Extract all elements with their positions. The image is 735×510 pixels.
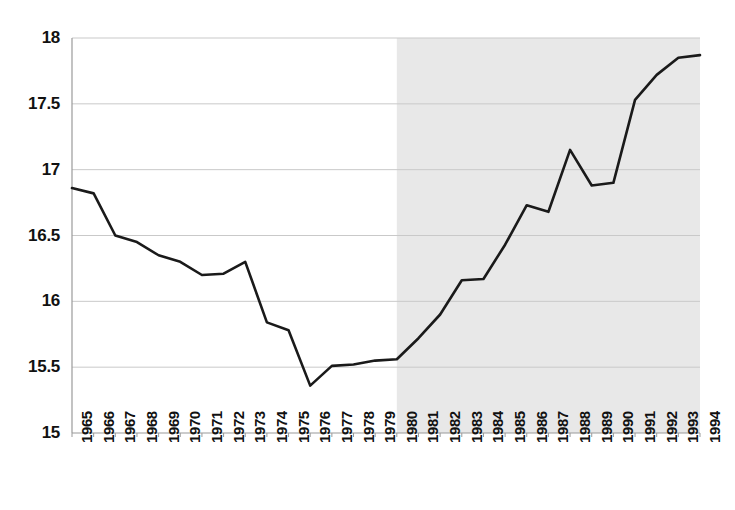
x-axis-tick-label: 1985 [511,411,528,443]
y-axis-tick-label: 17.5 [4,94,60,114]
y-axis-tick-label: 16 [4,291,60,311]
x-axis-tick-label: 1979 [381,411,398,443]
y-axis-tick-label: 15 [4,423,60,443]
x-axis-tick-label: 1976 [316,411,333,443]
chart-container: 1515.51616.51717.518 1965196619671968196… [0,0,735,510]
x-axis-tick-label: 1969 [165,411,182,443]
x-axis-tick-label: 1973 [251,411,268,443]
x-axis-tick-label: 1992 [663,411,680,443]
x-axis-tick-label: 1983 [468,411,485,443]
x-axis-tick-label: 1975 [295,411,312,443]
y-axis-tick-label: 18 [4,28,60,48]
x-axis-tick-label: 1966 [100,411,117,443]
x-axis-tick-label: 1994 [706,411,723,443]
x-axis-tick-label: 1967 [121,411,138,443]
x-axis-tick-label: 1981 [424,411,441,443]
y-axis-tick-label: 17 [4,160,60,180]
x-axis-tick-label: 1965 [78,411,95,443]
x-axis-tick-label: 1978 [360,411,377,443]
x-axis-tick-label: 1988 [576,411,593,443]
x-axis-tick-label: 1982 [446,411,463,443]
x-axis-tick-label: 1987 [554,411,571,443]
x-axis-tick-label: 1977 [338,411,355,443]
x-axis-tick-label: 1993 [684,411,701,443]
y-axis-tick-label: 16.5 [4,226,60,246]
x-axis-tick-label: 1972 [230,411,247,443]
x-axis-tick-label: 1968 [143,411,160,443]
x-axis-tick-label: 1971 [208,411,225,443]
y-axis-tick-label: 15.5 [4,357,60,377]
x-axis-tick-label: 1990 [619,411,636,443]
x-axis-tick-label: 1974 [273,411,290,443]
x-axis-tick-label: 1980 [403,411,420,443]
x-axis-tick-label: 1986 [533,411,550,443]
x-axis-tick-label: 1991 [641,411,658,443]
x-axis-tick-label: 1970 [186,411,203,443]
x-axis-tick-label: 1984 [489,411,506,443]
x-axis-tick-label: 1989 [598,411,615,443]
